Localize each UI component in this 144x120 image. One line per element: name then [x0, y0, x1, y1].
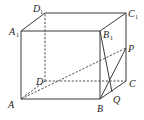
segment-BP — [100, 48, 126, 99]
label-P: P — [127, 43, 134, 54]
label-A: A — [7, 99, 15, 110]
label-B: B — [97, 103, 103, 114]
label-C1: C — [128, 8, 135, 19]
label-C1-sub: 1 — [135, 14, 138, 20]
cuboid-diagram: A B C D A 1 B 1 C 1 D 1 P Q — [0, 0, 144, 120]
label-B1: B — [103, 29, 109, 40]
label-C: C — [129, 78, 136, 89]
label-D: D — [35, 76, 44, 87]
edge-D1A1 — [21, 13, 45, 31]
label-A1: A — [8, 26, 16, 37]
label-A1-sub: 1 — [16, 32, 19, 38]
label-B1-sub: 1 — [110, 35, 113, 41]
label-Q: Q — [113, 94, 121, 105]
label-D1-sub: 1 — [40, 9, 43, 15]
